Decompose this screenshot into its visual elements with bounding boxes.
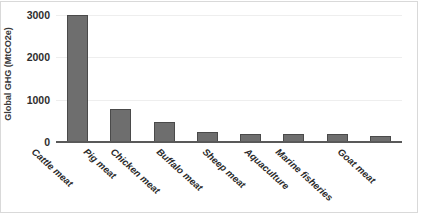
bar-slot bbox=[229, 15, 272, 142]
x-axis-tick-label: Buffalo meat bbox=[155, 146, 205, 193]
y-axis-tick-label: 1000 bbox=[27, 94, 50, 106]
y-axis-tick-label: 2000 bbox=[27, 51, 50, 63]
bar-slot bbox=[316, 15, 359, 142]
y-axis-title: Global GHG (MtCO2e) bbox=[1, 8, 15, 140]
chart-container: Global GHG (MtCO2e) 0100020003000 Cattle… bbox=[0, 1, 418, 213]
y-axis-tick-labels: 0100020003000 bbox=[15, 2, 53, 217]
y-axis-title-text: Global GHG (MtCO2e) bbox=[3, 27, 13, 121]
bar-slot bbox=[56, 15, 99, 142]
bar-series bbox=[56, 15, 402, 142]
bar-slot bbox=[186, 15, 229, 142]
plot-area bbox=[56, 15, 402, 142]
bar-slot bbox=[359, 15, 402, 142]
bar-slot bbox=[99, 15, 142, 142]
bar[interactable] bbox=[154, 122, 175, 142]
bar-slot bbox=[143, 15, 186, 142]
bar-slot bbox=[272, 15, 315, 142]
y-axis-tick-label: 3000 bbox=[27, 9, 50, 21]
bar[interactable] bbox=[110, 109, 131, 142]
x-axis-tick-labels: Cattle meatPig meatChicken meatBuffalo m… bbox=[56, 144, 402, 217]
x-axis-tick-label: Sheep meat bbox=[201, 146, 248, 190]
x-axis-tick-label: Goat meat bbox=[336, 146, 378, 186]
y-axis-tick-label: 0 bbox=[44, 136, 50, 148]
bar[interactable] bbox=[67, 15, 88, 142]
x-axis-line bbox=[56, 141, 402, 143]
